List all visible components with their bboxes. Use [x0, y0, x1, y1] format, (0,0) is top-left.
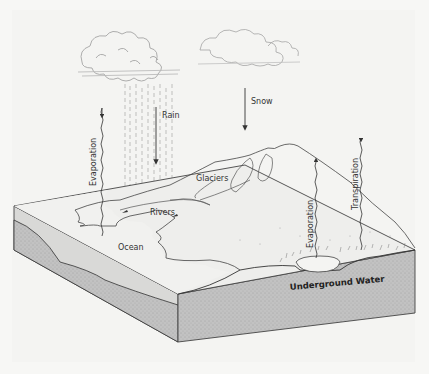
- evaporation-left-label: Evaporation: [89, 138, 98, 186]
- snow-label: Snow: [251, 97, 273, 106]
- water-cycle-diagram: Rain Snow Underground Water Evaporation …: [0, 0, 429, 374]
- rivers-label: Rivers: [150, 208, 175, 217]
- evaporation-right-label: Evaporation: [306, 200, 315, 248]
- rain-label: Rain: [162, 111, 180, 120]
- ocean-label: Ocean: [118, 243, 144, 252]
- glaciers-label: Glaciers: [196, 174, 228, 183]
- transpiration-label: Transpiration: [351, 158, 360, 211]
